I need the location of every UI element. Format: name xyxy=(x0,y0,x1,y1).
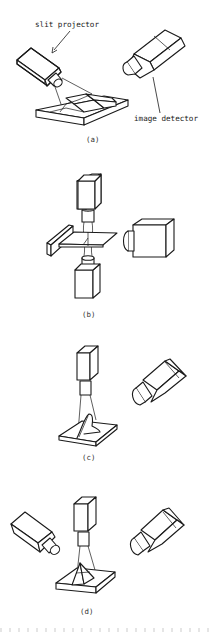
panel-c-drawing xyxy=(0,330,216,480)
panel-a-drawing xyxy=(0,0,216,160)
left-image-detector-icon xyxy=(11,512,61,556)
slit-projector-leader xyxy=(54,31,70,50)
bead-on-plate-object xyxy=(59,414,117,446)
stepped-block-object xyxy=(36,94,128,125)
bottom-slit-projector-icon xyxy=(75,256,100,298)
scan-bleed-through xyxy=(0,628,216,632)
vertical-slit-projector-icon xyxy=(74,497,96,546)
image-detector-leader xyxy=(153,77,160,113)
image-detector-icon xyxy=(123,30,185,78)
vertical-slit-projector-icon xyxy=(77,346,98,395)
figure: slit projector image detector (a) xyxy=(0,0,216,637)
panel-b-caption: (b) xyxy=(82,311,95,318)
right-image-detector-icon xyxy=(131,508,184,555)
top-slit-projector-icon xyxy=(77,174,101,222)
flat-plate-object xyxy=(47,225,117,256)
fillet-on-plate-object xyxy=(56,563,115,593)
image-detector-icon xyxy=(124,219,175,257)
slit-projector-icon xyxy=(17,48,64,89)
panel-d-drawing xyxy=(0,480,216,610)
panel-b-drawing xyxy=(0,150,216,310)
image-detector-icon xyxy=(133,359,186,405)
